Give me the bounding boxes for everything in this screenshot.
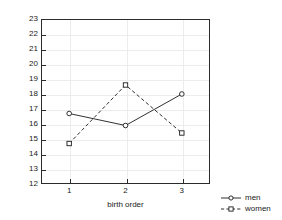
y-axis-tick [42, 50, 46, 51]
y-axis-tick-label: 20 [8, 60, 38, 68]
x-axis-tick-label: 1 [59, 187, 79, 195]
y-axis-tick [42, 95, 46, 96]
gridline-horizontal [42, 95, 209, 96]
y-axis-tick-label: 13 [8, 165, 38, 173]
y-axis-tick-label: 19 [8, 75, 38, 83]
x-axis-tick-label: 2 [116, 187, 136, 195]
gridline-vertical [70, 20, 71, 183]
y-axis-tick [42, 140, 46, 141]
gridline-horizontal [42, 35, 209, 36]
gridline-horizontal [42, 50, 209, 51]
gridline-horizontal [42, 125, 209, 126]
legend-marker-women-icon [220, 204, 242, 214]
y-axis-tick-label: 16 [8, 120, 38, 128]
gridline-horizontal [42, 110, 209, 111]
y-axis-tick [42, 35, 46, 36]
x-axis-tick [183, 179, 184, 183]
gridline-vertical [127, 20, 128, 183]
chart-legend: men women [220, 192, 280, 214]
gridline-horizontal [42, 155, 209, 156]
x-axis-tick [70, 179, 71, 183]
gridline-horizontal [42, 170, 209, 171]
x-axis-tick [127, 179, 128, 183]
y-axis-tick [42, 110, 46, 111]
y-axis-tick-label: 17 [8, 105, 38, 113]
gridline-vertical [183, 20, 184, 183]
legend-entry-women: women [220, 203, 280, 214]
y-axis-tick [42, 170, 46, 171]
y-axis-tick-label: 15 [8, 135, 38, 143]
y-axis-tick-label: 21 [8, 45, 38, 53]
y-axis-tick-label: 14 [8, 150, 38, 158]
y-axis-tick [42, 155, 46, 156]
gridline-horizontal [42, 65, 209, 66]
legend-marker-men-icon [220, 193, 242, 203]
y-axis-tick-label: 22 [8, 30, 38, 38]
legend-label-women: women [245, 205, 271, 213]
x-axis-tick-label: 3 [172, 187, 192, 195]
y-axis-tick-label: 12 [8, 180, 38, 188]
y-axis-tick-label: 18 [8, 90, 38, 98]
gridline-horizontal [42, 140, 209, 141]
y-axis-tick [42, 65, 46, 66]
gridline-horizontal [42, 80, 209, 81]
y-axis-tick [42, 80, 46, 81]
chart-figure: 232221201918171615141312 123 birth order… [0, 0, 282, 220]
x-axis-label: birth order [41, 200, 210, 209]
y-axis-tick-label: 23 [8, 15, 38, 23]
legend-entry-men: men [220, 192, 280, 203]
legend-label-men: men [245, 194, 261, 202]
plot-area [41, 19, 210, 184]
y-axis-tick [42, 125, 46, 126]
